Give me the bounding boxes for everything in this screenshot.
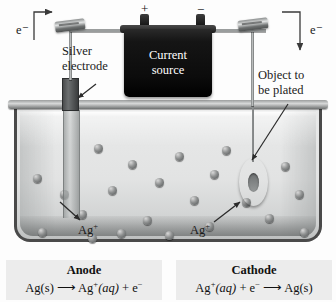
silver-ion [155, 178, 164, 187]
ring-hole [248, 173, 259, 192]
silver-electrode [62, 78, 79, 111]
silver-ion [222, 146, 231, 155]
object-label-line2: be plated [258, 83, 332, 98]
ion-label-anode-text: Ag [78, 223, 93, 237]
silver-electrode-submerged [63, 110, 80, 218]
cathode-arrow: ⟶ [263, 282, 281, 296]
silver-ion [33, 174, 42, 183]
tank-rim [8, 100, 328, 109]
ion-label-anode: Ag+ [78, 221, 98, 238]
silver-electrode-label: Silver electrode [62, 44, 124, 74]
electroplating-diagram: Current source + − e⁻ e⁻ [0, 0, 336, 302]
current-source-label: Current source [124, 29, 212, 97]
wire-right-vertical [251, 30, 254, 106]
silver-ion [143, 216, 152, 225]
electron-label-left-text: e⁻ [16, 23, 29, 37]
anode-product1: Ag [78, 282, 93, 296]
cathode-product: Ag(s) [284, 282, 312, 296]
cathode-title: Cathode [231, 263, 276, 278]
current-source-line1: Current [149, 48, 187, 63]
ion-label-anode-charge: + [93, 221, 98, 231]
silver-ion [265, 214, 274, 223]
cathode-reactant1: Ag [195, 282, 210, 296]
anode-title: Anode [67, 263, 102, 278]
electron-label-right: e⁻ [310, 22, 323, 38]
silver-electrode-leader [78, 84, 96, 98]
anode-reactant: Ag(s) [25, 282, 53, 296]
cathode-reactant2-charge: − [255, 279, 260, 289]
silver-ion [210, 170, 219, 179]
silver-ion [190, 196, 199, 205]
silver-ion [175, 152, 184, 161]
silver-ion [295, 190, 304, 199]
current-source-line2: source [152, 63, 185, 78]
electron-flow-arrow-left [34, 12, 52, 40]
anode-product1-state: (aq) [98, 282, 119, 296]
tank-body [14, 106, 322, 242]
cathode-equation: Ag+(aq) + e− ⟶ Ag(s) [195, 279, 312, 296]
ion-label-cathode-text: Ag [190, 223, 205, 237]
plating-tank [14, 106, 322, 242]
anode-equation-box: Anode Ag(s) ⟶ Ag+(aq) + e− [6, 260, 162, 300]
cathode-reactant1-state: (aq) [215, 282, 236, 296]
silver-ion [281, 162, 290, 171]
object-suspension-rod [252, 104, 254, 162]
ion-label-cathode-charge: + [205, 221, 210, 231]
silver-ion [94, 144, 103, 153]
electron-label-right-text: e⁻ [310, 23, 323, 37]
silver-ion [108, 186, 117, 195]
silver-ion [117, 229, 126, 238]
anode-plus: + [122, 282, 129, 296]
object-label: Object to be plated [258, 68, 332, 98]
anode-equation: Ag(s) ⟶ Ag+(aq) + e− [25, 279, 142, 296]
object-to-be-plated [239, 158, 268, 206]
minus-sign: − [197, 3, 204, 16]
object-label-line1: Object to [258, 68, 332, 83]
plus-sign: + [141, 2, 148, 15]
anode-arrow: ⟶ [57, 282, 75, 296]
silver-electrode-label-line2: electrode [62, 59, 124, 74]
cathode-equation-box: Cathode Ag+(aq) + e− ⟶ Ag(s) [176, 260, 332, 300]
silver-ion [38, 228, 47, 237]
silver-ion [300, 228, 309, 237]
ion-label-cathode: Ag+ [190, 221, 210, 238]
cathode-plus: + [239, 282, 246, 296]
electron-label-left: e⁻ [16, 22, 29, 38]
silver-ion [128, 160, 137, 169]
electron-flow-arrow-right [282, 12, 300, 50]
silver-ion [165, 231, 174, 240]
silver-electrode-label-line1: Silver [62, 44, 124, 59]
anode-product2-charge: − [138, 279, 143, 289]
current-source: Current source [124, 29, 212, 97]
